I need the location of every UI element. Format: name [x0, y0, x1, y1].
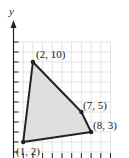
point-label-8-3: (8, 3) — [93, 119, 117, 132]
point-label-1-2: (1, 2) — [16, 145, 40, 158]
vertex-dot — [21, 140, 25, 144]
point-label-7-5: (7, 5) — [83, 99, 107, 112]
y-axis-label: y — [8, 5, 14, 17]
y-axis-arrow-icon — [11, 20, 17, 28]
chart: y (1, 2) (2, 10) (7, 5) (8, 3) — [0, 0, 129, 158]
vertex-dot — [31, 60, 35, 64]
point-label-2-10: (2, 10) — [36, 48, 66, 61]
